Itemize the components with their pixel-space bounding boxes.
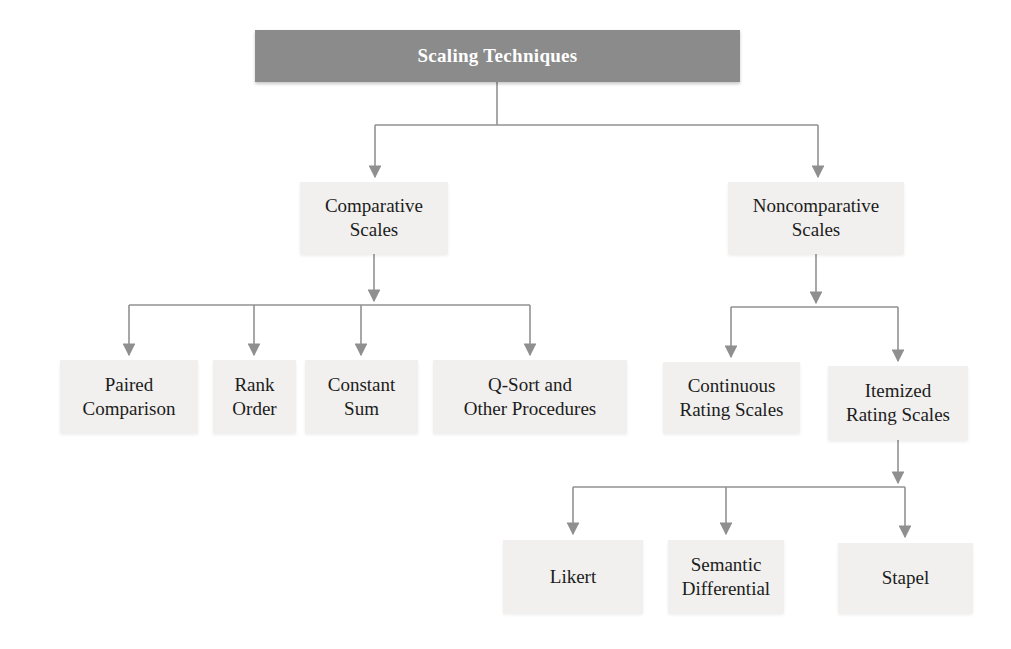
node-likert: Likert [503,540,643,613]
node-stapel: Stapel [838,543,973,613]
connector-root-to-level1 [375,82,818,177]
connector-comparative-children [129,253,530,355]
node-rank-order: Rank Order [213,360,296,433]
node-scaling-techniques: Scaling Techniques [255,30,740,82]
scaling-techniques-diagram: Scaling Techniques Comparative Scales No… [0,0,1011,649]
node-noncomparative-scales: Noncomparative Scales [728,182,904,254]
connector-itemized-children [573,440,905,537]
node-itemized-rating-scales: Itemized Rating Scales [828,366,968,440]
connector-noncomparative-children [731,253,898,361]
node-continuous-rating-scales: Continuous Rating Scales [663,362,800,433]
node-semantic-differential: Semantic Differential [668,540,784,613]
node-comparative-scales: Comparative Scales [300,182,448,254]
node-constant-sum: Constant Sum [305,360,418,433]
node-paired-comparison: Paired Comparison [60,360,198,433]
node-qsort-other-procedures: Q-Sort and Other Procedures [433,360,627,433]
